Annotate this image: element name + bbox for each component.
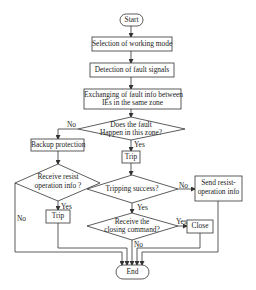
- fault-yes-label: Yes: [134, 141, 145, 149]
- send-resist-label-1: Send resist-: [195, 179, 242, 187]
- selection-label: Selection of working mode: [92, 40, 172, 48]
- backup-label: Backup protection: [31, 141, 84, 149]
- resist-decision-label-2: operation info ?: [22, 182, 94, 190]
- resist-decision-label-1: Receive resist: [22, 173, 94, 181]
- trip-main-label: Trip: [122, 153, 140, 161]
- detection-label: Detection of fault signals: [90, 66, 174, 74]
- tripping-yes-label: Yes: [137, 204, 148, 212]
- resist-yes-label: Yes: [61, 203, 72, 211]
- tripping-decision-label: Tripping success?: [95, 185, 169, 193]
- closing-no-label: No: [134, 241, 143, 249]
- closing-yes-label: Yes: [176, 218, 187, 226]
- trip-backup-label: Trip: [46, 212, 70, 220]
- fault-no-label: No: [67, 121, 76, 129]
- send-resist-label-2: operation info: [195, 188, 242, 196]
- exchanging-label-2: IEs in the same zone: [84, 99, 181, 107]
- fault-decision-label-2: Happen in this zone?: [90, 129, 172, 137]
- tripping-no-label: No: [179, 182, 188, 190]
- resist-no-label: No: [17, 215, 26, 223]
- close-label: Close: [187, 222, 213, 230]
- end-label: End: [116, 268, 149, 276]
- closing-decision-label-2: closing command?: [96, 226, 168, 234]
- start-label: Start: [120, 16, 143, 24]
